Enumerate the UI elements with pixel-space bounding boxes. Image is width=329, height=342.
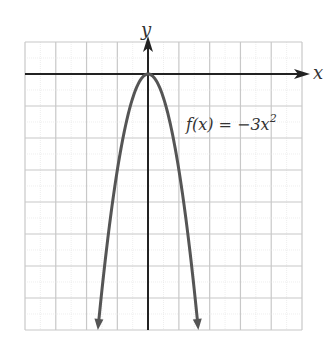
function-label: f(x) = −3x2 xyxy=(185,112,277,134)
grid-lines xyxy=(25,42,302,330)
function-label-main: f(x) = −3x xyxy=(185,115,270,134)
function-label-exponent: 2 xyxy=(269,112,277,125)
axes xyxy=(25,36,310,330)
y-axis-label: y xyxy=(140,19,152,40)
x-axis-label: x xyxy=(313,62,323,83)
parabola-chart: x y f(x) = −3x2 xyxy=(0,0,329,342)
